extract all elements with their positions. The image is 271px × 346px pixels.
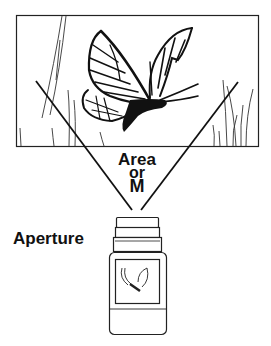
aperture-label: Aperture: [13, 230, 84, 247]
camera-device: [110, 218, 167, 335]
lens-ring-top: [117, 218, 159, 228]
m-label: M: [113, 177, 161, 195]
camera-screen: [116, 260, 160, 304]
lens-ring-lower: [114, 238, 162, 252]
lens-ring-middle: [116, 228, 160, 238]
